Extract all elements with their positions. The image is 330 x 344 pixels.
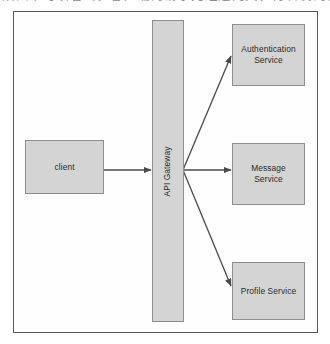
node-authentication-service-label-line1: Authentication	[241, 44, 295, 55]
node-api-gateway-label: API Gateway	[163, 146, 174, 196]
node-profile-service[interactable]: Profile Service	[232, 262, 305, 320]
edge-gateway-to-profile	[183, 170, 231, 286]
diagram-canvas: 从图中可以看出，客户端的请求先经过网关，再转发到各个微服务 client API…	[0, 0, 330, 344]
node-message-service-label: Message Service	[251, 163, 286, 185]
node-message-service-label-line2: Service	[251, 174, 286, 185]
node-authentication-service-label: Authentication Service	[241, 44, 295, 66]
node-message-service[interactable]: Message Service	[232, 143, 305, 205]
node-message-service-label-line1: Message	[251, 163, 286, 174]
node-authentication-service-label-line2: Service	[241, 55, 295, 66]
node-profile-service-label: Profile Service	[241, 286, 297, 297]
node-client-label: client	[54, 162, 74, 173]
node-api-gateway[interactable]: API Gateway	[152, 20, 184, 322]
node-client[interactable]: client	[25, 140, 104, 194]
node-authentication-service[interactable]: Authentication Service	[232, 24, 305, 86]
edge-gateway-to-authentication	[183, 56, 231, 170]
